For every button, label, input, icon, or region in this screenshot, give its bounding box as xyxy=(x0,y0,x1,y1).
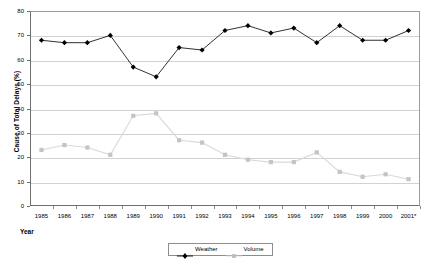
data-point-marker xyxy=(85,145,89,149)
data-series-layer xyxy=(0,0,436,261)
series-weather xyxy=(39,23,411,79)
data-point-marker xyxy=(85,40,90,45)
data-point-marker xyxy=(39,38,44,43)
data-point-marker xyxy=(223,153,227,157)
data-point-marker xyxy=(131,114,135,118)
data-point-marker xyxy=(360,38,365,43)
series-line xyxy=(41,26,408,77)
data-point-marker xyxy=(292,160,296,164)
data-point-marker xyxy=(108,153,112,157)
data-point-marker xyxy=(338,170,342,174)
chart-legend: Weather Volume xyxy=(168,243,273,256)
data-point-marker xyxy=(62,40,67,45)
data-point-marker xyxy=(406,177,410,181)
chart-container: Cause of Total Delays (%) Year 010203040… xyxy=(0,0,436,261)
legend-entry-weather[interactable]: Weather xyxy=(177,246,218,254)
data-point-marker xyxy=(177,138,181,142)
data-point-marker xyxy=(291,25,296,30)
data-point-marker xyxy=(154,111,158,115)
data-point-marker xyxy=(383,38,388,43)
legend-label-volume: Volume xyxy=(244,246,264,253)
data-point-marker xyxy=(383,172,387,176)
weather-marker-icon xyxy=(177,246,193,254)
series-line xyxy=(41,113,408,179)
data-point-marker xyxy=(200,141,204,145)
series-volume xyxy=(39,111,410,181)
data-point-marker xyxy=(246,158,250,162)
legend-entry-volume[interactable]: Volume xyxy=(226,246,264,254)
data-point-marker xyxy=(269,160,273,164)
legend-label-weather: Weather xyxy=(195,246,218,253)
data-point-marker xyxy=(62,143,66,147)
volume-marker-icon xyxy=(226,246,242,254)
data-point-marker xyxy=(315,150,319,154)
data-point-marker xyxy=(39,148,43,152)
data-point-marker xyxy=(361,175,365,179)
data-point-marker xyxy=(406,28,411,33)
data-point-marker xyxy=(245,23,250,28)
data-point-marker xyxy=(268,30,273,35)
